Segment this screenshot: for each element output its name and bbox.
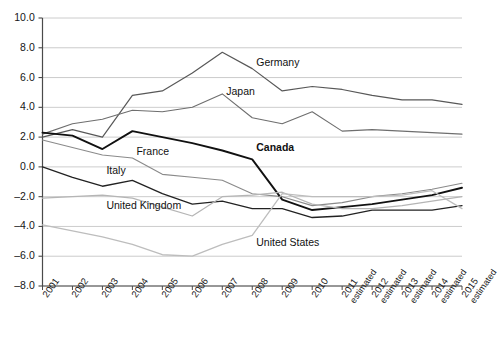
y-tick-label: 0.0 [0, 160, 35, 172]
series-label-united-kingdom: United Kingdom [106, 199, 181, 211]
series-label-france: France [136, 145, 169, 157]
y-tick-label: 6.0 [0, 71, 35, 83]
y-tick-label: –4.0 [0, 219, 35, 231]
data-series-group [43, 52, 463, 256]
series-label-germany: Germany [256, 56, 299, 68]
series-label-united-states: United States [256, 236, 319, 248]
series-label-canada: Canada [256, 141, 294, 153]
y-tick-label: 2.0 [0, 130, 35, 142]
y-tick-label: –6.0 [0, 249, 35, 261]
series-label-japan: Japan [226, 85, 255, 97]
axes [39, 18, 463, 286]
y-tick-label: –8.0 [0, 279, 35, 291]
y-tick-label: –2.0 [0, 190, 35, 202]
gridlines [43, 18, 463, 286]
series-label-italy: Italy [106, 164, 125, 176]
y-tick-label: 8.0 [0, 41, 35, 53]
series-line-italy [43, 167, 463, 218]
y-tick-label: 4.0 [0, 100, 35, 112]
y-tick-label: 10.0 [0, 11, 35, 23]
series-line-canada [43, 131, 463, 210]
